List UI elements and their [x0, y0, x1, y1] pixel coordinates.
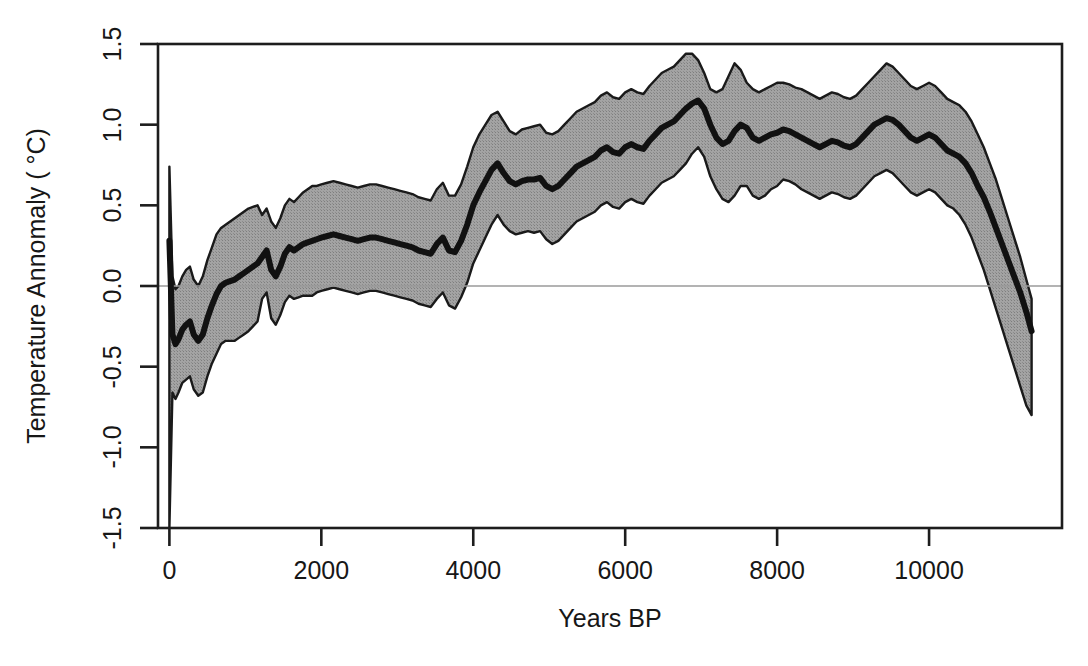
x-tick-label: 4000 [445, 556, 501, 585]
x-tick-label: 6000 [597, 556, 653, 585]
y-tick-label: -1.5 [98, 506, 127, 549]
y-tick-label: 0.5 [98, 188, 127, 223]
y-tick-label: -1.0 [98, 426, 127, 469]
y-tick-label: 1.0 [98, 107, 127, 142]
x-axis-title: Years BP [558, 604, 661, 633]
y-tick-label: 0.0 [98, 269, 127, 304]
x-tick-label: 10000 [894, 556, 964, 585]
x-tick-label: 0 [162, 556, 176, 585]
y-axis-title: Temperature Annomaly ( °C) [22, 128, 51, 444]
y-tick-label: 1.5 [98, 27, 127, 62]
x-tick-label: 8000 [749, 556, 805, 585]
x-axis-ticks [169, 528, 929, 546]
y-axis-ticks [140, 44, 158, 528]
chart-figure: 0200040006000800010000 -1.5-1.0-0.50.00.… [0, 0, 1088, 666]
x-tick-label: 2000 [294, 556, 350, 585]
y-tick-label: -0.5 [98, 345, 127, 388]
